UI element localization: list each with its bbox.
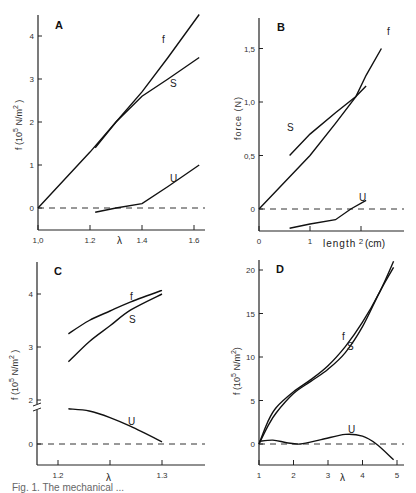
panel-d-label: D xyxy=(276,263,284,275)
y-tick-label: 1,5 xyxy=(244,45,256,54)
series-label-u: U xyxy=(359,192,366,203)
y-tick-label: 2 xyxy=(30,118,35,127)
panel-b-label: B xyxy=(277,21,285,33)
y-tick-label: 0 xyxy=(251,205,256,214)
curve-u xyxy=(95,165,199,212)
panel-c-label: C xyxy=(54,265,62,277)
curve-s xyxy=(68,294,162,362)
series-label-f: f xyxy=(342,331,345,342)
y-tick-label: 0,5 xyxy=(244,152,256,161)
panel-b-curves: fSU xyxy=(259,26,390,228)
x-tick-label: 1,0 xyxy=(32,236,44,245)
y-tick-label: 3 xyxy=(29,343,34,352)
curve-u xyxy=(259,434,394,459)
panel-b-xlabel: length xyxy=(323,238,356,249)
series-label-f: f xyxy=(162,34,165,45)
y-tick-label: 0 xyxy=(251,440,256,449)
panel-c-yticks: 0234 xyxy=(29,290,41,449)
y-tick-label: 20 xyxy=(246,266,255,275)
x-tick-label: 4 xyxy=(360,471,365,480)
x-tick-label: 3 xyxy=(326,471,331,480)
x-tick-label: 1.3 xyxy=(156,471,168,480)
y-tick-label: 2 xyxy=(29,396,34,405)
x-tick-label: 1.2 xyxy=(52,471,64,480)
panel-a-ylabel: f (105 N/m2 ) xyxy=(12,100,24,150)
panel-d-yticks: 05101520 xyxy=(246,266,263,449)
y-tick-label: 5 xyxy=(251,397,256,406)
x-tick-label: 1.6 xyxy=(188,236,200,245)
y-tick-label: 1 xyxy=(30,161,35,170)
y-tick-label: 0 xyxy=(30,204,35,213)
panel-c-curves: fSU xyxy=(68,290,162,442)
y-tick-label: 15 xyxy=(246,310,255,319)
x-tick-label: 1.2 xyxy=(84,236,96,245)
x-tick-label: 1 xyxy=(308,237,313,246)
panel-d-ylabel: f (105 N/m2) xyxy=(230,347,242,395)
curve-s xyxy=(259,267,394,444)
x-tick-label: 0 xyxy=(257,237,262,246)
panel-d-curves: fSU xyxy=(259,261,394,459)
x-tick-label: 1 xyxy=(257,471,262,480)
panel-b-xunit: (cm) xyxy=(365,238,385,249)
panel-d-xlabel: λ xyxy=(340,472,345,483)
y-tick-label: 3 xyxy=(30,75,35,84)
panel-a-xlabel: λ xyxy=(117,235,122,246)
series-label-s: S xyxy=(347,341,354,352)
figure-caption: Fig. 1. The mechanical ... xyxy=(12,482,124,493)
series-label-s: S xyxy=(287,122,294,133)
curve-f xyxy=(259,261,394,444)
curve-u xyxy=(68,409,162,442)
curve-s xyxy=(95,58,199,148)
panel-d: D 05101520 12345 λ f (105 N/m2) fSU xyxy=(230,260,404,483)
series-label-f: f xyxy=(387,26,390,37)
panel-a: A 01234 1,01.21.41.6 λ f (105 N/m2 ) fSU xyxy=(12,15,205,247)
curve-f xyxy=(259,49,381,210)
y-tick-label: 1,0 xyxy=(244,98,256,107)
panel-b-yticks: 00,51,01,5 xyxy=(244,45,263,215)
panel-d-xticks: 12345 xyxy=(257,460,400,480)
x-tick-label: 1.4 xyxy=(136,236,148,245)
panel-c-ylabel: f (105 N/m2 ) xyxy=(8,350,20,400)
x-tick-label: 2 xyxy=(359,237,364,246)
curve-s xyxy=(290,86,367,156)
series-label-f: f xyxy=(130,291,133,302)
panel-b-ylabel: force (N) xyxy=(233,96,243,140)
curve-u xyxy=(290,200,367,228)
x-tick-label: 2 xyxy=(291,471,296,480)
series-label-u: U xyxy=(128,416,135,427)
series-label-s: S xyxy=(170,78,177,89)
curve-f xyxy=(68,290,162,334)
panel-b: B 00,51,01,5 012 length (cm) force (N) f… xyxy=(233,18,404,249)
x-tick-label: 5 xyxy=(395,471,400,480)
panel-c: C 0234 1.21.3 λ f (105 N/m2 ) fSU xyxy=(8,262,205,483)
series-label-u: U xyxy=(170,173,177,184)
y-tick-label: 4 xyxy=(29,290,34,299)
y-tick-label: 4 xyxy=(30,32,35,41)
y-tick-label: 0 xyxy=(29,440,34,449)
y-tick-label: 10 xyxy=(246,353,255,362)
series-label-u: U xyxy=(348,424,355,435)
panel-a-curves: fSU xyxy=(38,15,199,213)
panel-a-yticks: 01234 xyxy=(30,32,42,213)
series-label-s: S xyxy=(129,314,136,325)
panel-a-label: A xyxy=(55,19,63,31)
